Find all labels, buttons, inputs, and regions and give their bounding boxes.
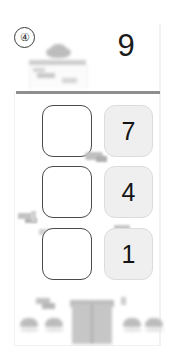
number-tile[interactable]: 4 xyxy=(104,166,153,218)
blurred-text-line xyxy=(33,68,45,72)
blurred-cloud-shape xyxy=(46,47,71,58)
answer-row: 1 xyxy=(0,228,173,282)
blurred-nav-item-shadow xyxy=(145,328,164,332)
answer-input-box[interactable] xyxy=(42,228,92,280)
exercise-screen: ④ 9 7 4 1 xyxy=(0,0,173,352)
answer-input-box[interactable] xyxy=(42,105,92,157)
blurred-nav-item-shadow xyxy=(123,328,142,332)
blurred-decoration xyxy=(121,297,126,305)
question-index-badge: ④ xyxy=(14,27,35,48)
blurred-nav-item[interactable] xyxy=(123,318,141,327)
blurred-nav-item[interactable] xyxy=(145,318,163,327)
prompt-number: 9 xyxy=(106,26,146,66)
number-tile[interactable]: 7 xyxy=(104,105,153,157)
answer-row: 7 xyxy=(0,105,173,159)
number-tile[interactable]: 1 xyxy=(104,228,153,280)
answer-row: 4 xyxy=(0,166,173,220)
blurred-nav-center-divider xyxy=(91,304,93,344)
blurred-bottom-navigation[interactable] xyxy=(14,296,161,346)
blurred-nav-item[interactable] xyxy=(20,318,38,327)
blurred-text-line xyxy=(62,78,77,83)
blurred-nav-item[interactable] xyxy=(45,318,63,327)
blurred-decoration xyxy=(42,303,55,309)
answer-input-box[interactable] xyxy=(42,166,92,218)
section-divider xyxy=(16,91,160,94)
blurred-nav-item-shadow xyxy=(20,328,39,332)
blurred-text-line xyxy=(37,73,55,78)
blurred-decoration xyxy=(96,156,107,162)
blurred-header-card xyxy=(29,47,86,91)
blurred-nav-item-shadow xyxy=(45,328,64,332)
